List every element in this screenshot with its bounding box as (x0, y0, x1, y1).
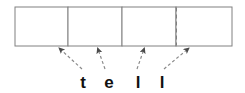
cell-2 (68, 7, 122, 46)
cells-row (15, 7, 232, 46)
letter-l-2: l (160, 73, 165, 92)
diagram-canvas: t e l l (0, 0, 245, 93)
letter-e: e (104, 73, 113, 92)
arrow-t (59, 48, 82, 69)
arrow-e (98, 48, 105, 69)
cell-1 (15, 7, 68, 46)
arrow-l-2 (164, 48, 189, 69)
letter-t: t (80, 73, 86, 92)
cell-4 (176, 7, 232, 46)
letter-l-1: l (136, 73, 141, 92)
cell-3 (122, 7, 176, 46)
word-letters: t e l l (80, 73, 164, 92)
arrow-l-1 (137, 48, 144, 69)
arrows-group (59, 48, 189, 69)
tape-diagram-figure: t e l l (0, 0, 245, 93)
